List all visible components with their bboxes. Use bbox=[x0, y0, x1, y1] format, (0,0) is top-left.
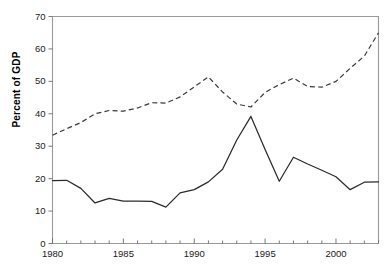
axis-frame bbox=[53, 17, 379, 244]
y-tick-label: 40 bbox=[35, 108, 46, 119]
x-tick-label: 2000 bbox=[325, 248, 346, 259]
x-tick-label: 1980 bbox=[42, 248, 63, 259]
plot-area: 01020304050607019801985199019952000 bbox=[0, 0, 392, 275]
y-tick-label: 50 bbox=[35, 75, 46, 86]
x-tick-label: 1995 bbox=[255, 248, 276, 259]
series-line-dashed bbox=[53, 33, 379, 135]
y-tick-label: 10 bbox=[35, 205, 46, 216]
y-tick-label: 60 bbox=[35, 43, 46, 54]
line-chart: Percent of GDP 0102030405060701980198519… bbox=[0, 0, 392, 275]
y-tick-label: 70 bbox=[35, 11, 46, 22]
y-tick-label: 20 bbox=[35, 173, 46, 184]
x-tick-label: 1990 bbox=[184, 248, 205, 259]
series-line-solid bbox=[53, 116, 379, 207]
y-tick-label: 30 bbox=[35, 140, 46, 151]
x-tick-label: 1985 bbox=[113, 248, 134, 259]
